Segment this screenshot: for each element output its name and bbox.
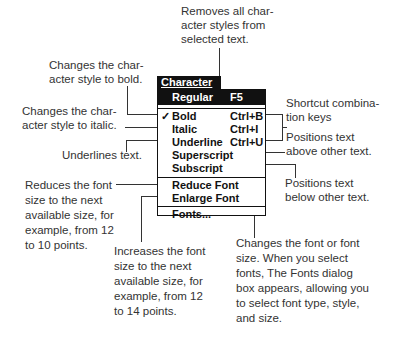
callout-reduce-font: Reduces the font size to the next availa… bbox=[25, 178, 114, 253]
menu-separator bbox=[158, 177, 265, 178]
callout-italic: Changes the char- acter style to italic. bbox=[22, 104, 117, 132]
callout-regular: Removes all char- acter styles from sele… bbox=[181, 4, 274, 46]
leader-bold-v bbox=[127, 86, 128, 114]
callout-fonts: Changes the font or font size. When you … bbox=[236, 236, 369, 326]
menu-item-enlarge-font[interactable]: Enlarge Font bbox=[158, 192, 265, 205]
leader-enlarge-v bbox=[141, 196, 142, 242]
menu-item-underline[interactable]: Underline Ctrl+U bbox=[158, 136, 265, 149]
menu-item-shortcut: Ctrl+B bbox=[230, 110, 263, 123]
menu-item-label: Underline bbox=[172, 136, 223, 149]
menu-item-label: Superscript bbox=[172, 149, 233, 162]
menu-item-reduce-font[interactable]: Reduce Font bbox=[158, 179, 265, 192]
callout-superscript: Positions text above other text. bbox=[286, 130, 372, 158]
menu-item-regular[interactable]: Regular F5 bbox=[158, 90, 265, 105]
menu-item-subscript[interactable]: Subscript bbox=[158, 162, 265, 175]
menu-item-superscript[interactable]: Superscript bbox=[158, 149, 265, 162]
callout-subscript: Positions text below other text. bbox=[285, 176, 369, 204]
menu-item-label: Italic bbox=[172, 123, 197, 136]
callout-shortcut: Shortcut combina- tion keys bbox=[286, 96, 379, 124]
menu-title[interactable]: Character bbox=[157, 76, 221, 89]
menu-item-label: Subscript bbox=[172, 162, 223, 175]
menu-separator bbox=[158, 206, 265, 207]
leader-shortcut-out bbox=[282, 127, 287, 128]
menu-item-label: Regular bbox=[172, 90, 213, 105]
menu-item-shortcut: Ctrl+I bbox=[230, 123, 258, 136]
callout-enlarge-font: Increases the font size to the next avai… bbox=[114, 244, 205, 319]
menu-item-label: Bold bbox=[172, 110, 196, 123]
leader-bold-h bbox=[127, 114, 159, 115]
menu-item-italic[interactable]: Italic Ctrl+I bbox=[158, 123, 265, 136]
menu-item-fonts[interactable]: Fonts... bbox=[158, 208, 265, 221]
callout-bold: Changes the char- acter style to bold. bbox=[49, 58, 144, 86]
callout-underline: Underlines text. bbox=[62, 148, 142, 162]
menu-dropdown: Regular F5 ✓ Bold Ctrl+B Italic Ctrl+I U… bbox=[157, 89, 266, 216]
menu-item-shortcut: F5 bbox=[230, 90, 243, 105]
character-menu: Character Regular F5 ✓ Bold Ctrl+B Itali… bbox=[157, 76, 266, 214]
menu-item-label: Reduce Font bbox=[172, 179, 239, 192]
menu-item-bold[interactable]: ✓ Bold Ctrl+B bbox=[158, 110, 265, 123]
menu-item-shortcut: Ctrl+U bbox=[230, 136, 263, 149]
menu-item-label: Enlarge Font bbox=[172, 192, 239, 205]
menu-item-label: Fonts... bbox=[172, 208, 211, 221]
leader-underline-v bbox=[126, 140, 127, 152]
leader-subscript-v bbox=[295, 164, 296, 178]
checkmark-icon: ✓ bbox=[161, 110, 170, 123]
menu-separator bbox=[158, 108, 265, 109]
